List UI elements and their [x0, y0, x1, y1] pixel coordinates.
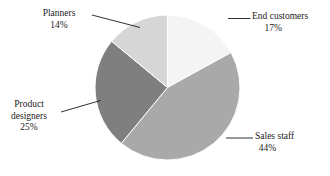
pie-label-product-designers-line1: Product	[0, 99, 59, 111]
pie-label-end-customers-name: End customers	[252, 11, 308, 23]
pie-label-sales-staff-value: 44%	[255, 143, 294, 155]
pie-label-planners-name: Planners	[29, 8, 89, 20]
pie-label-planners-value: 14%	[29, 20, 89, 32]
pie-label-planners: Planners 14%	[29, 8, 89, 31]
pie-label-end-customers: End customers 17%	[252, 11, 308, 34]
leader-line-planners	[92, 15, 140, 28]
pie-label-end-customers-value: 17%	[252, 23, 308, 35]
pie-label-product-designers: Product designers 25%	[0, 99, 59, 134]
pie-slices	[95, 15, 240, 160]
leader-line-product-designers	[61, 101, 101, 113]
pie-label-sales-staff-name: Sales staff	[255, 131, 294, 143]
pie-chart-figure: End customers 17% Sales staff 44% Produc…	[0, 0, 330, 176]
pie-label-product-designers-line2: designers	[0, 111, 59, 123]
pie-label-product-designers-value: 25%	[0, 122, 59, 134]
pie-label-sales-staff: Sales staff 44%	[255, 131, 294, 154]
